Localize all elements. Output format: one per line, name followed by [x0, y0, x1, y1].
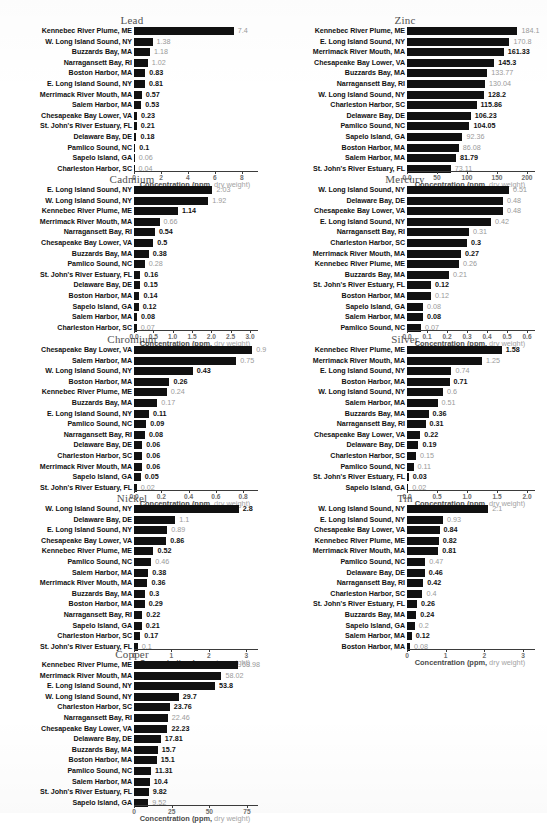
bar [134, 27, 234, 35]
bar [407, 600, 417, 608]
bar-row: Merrimack River Mouth, MA161.33 [273, 47, 547, 57]
bar-row: Salem Harbor, MA0.08 [0, 312, 273, 322]
chart-title: Lead [72, 14, 192, 26]
bar-value-label: 104.05 [473, 121, 495, 131]
bar-value-label: 161.33 [508, 47, 530, 57]
bar [134, 693, 179, 701]
bar-value-label: 1.14 [182, 206, 196, 216]
bar-value-label: 0.08 [427, 312, 441, 322]
bar-value-label: 0.31 [430, 419, 444, 429]
bar-row: E. Long Island Sound, NY53.8 [0, 681, 300, 691]
bar-row: Charleston Harbor, SC0.4 [273, 589, 547, 599]
bar-row: E. Long Island Sound, NY0.81 [0, 79, 273, 89]
bar [407, 399, 438, 407]
plot-area: Kennebec River Plume, ME184.1E. Long Isl… [273, 26, 547, 174]
bar [134, 622, 142, 630]
bar [407, 452, 416, 460]
category-label: Kennebec River Plume, ME [273, 345, 405, 355]
bar-track [134, 217, 250, 227]
bar-value-label: 0.51 [442, 398, 456, 408]
bar [134, 746, 158, 754]
bar-value-label: 2.8 [243, 504, 253, 514]
bar-value-label: 15.1 [161, 755, 175, 765]
bar-value-label: 0.57 [146, 90, 160, 100]
bar-track [134, 398, 250, 408]
bar-value-label: 22.23 [171, 724, 189, 734]
bar-value-label: 1.58 [506, 345, 520, 355]
bar [134, 112, 137, 120]
bar-value-label: 0.22 [146, 610, 160, 620]
bar-value-label: 1.1 [179, 515, 189, 525]
bar-value-label: 0.08 [149, 430, 163, 440]
bar-track [134, 546, 250, 556]
bar [134, 611, 142, 619]
category-label: E. Long Island Sound, NY [273, 515, 405, 525]
plot-area: E. Long Island Sound, NY2.03W. Long Isla… [0, 185, 273, 333]
category-label: Chesapeake Bay Lower, VA [0, 536, 132, 546]
bar-row: Chesapeake Bay Lower, VA0.86 [0, 536, 273, 546]
bar [134, 91, 142, 99]
bar-row: Sapelo Island, GA0.06 [0, 153, 273, 163]
bar-row: Chesapeake Bay Lower, VA0.5 [0, 238, 273, 248]
category-label: Chesapeake Bay Lower, VA [273, 206, 405, 216]
bar-value-label: 0.36 [151, 578, 165, 588]
category-label: Boston Harbor, MA [0, 377, 132, 387]
bar-row: Pamlico Sound, NC0.1 [0, 143, 273, 153]
bar-row: Buzzards Bay, MA0.38 [0, 249, 273, 259]
bar [407, 133, 462, 141]
bar [407, 59, 494, 67]
bar [407, 590, 422, 598]
bar-value-label: 0.1 [139, 143, 149, 153]
bar-row: Kennebec River Plume, ME0.82 [273, 536, 547, 546]
bar [134, 703, 170, 711]
bar [407, 303, 423, 311]
category-label: St. John's River Estuary, FL [273, 472, 405, 482]
bar [407, 271, 449, 279]
category-label: Sapelo Island, GA [273, 132, 405, 142]
bar-value-label: 0.15 [144, 280, 158, 290]
bar-track [407, 90, 527, 100]
bar-row: Pamlico Sound, NC0.47 [273, 557, 547, 567]
bar-row: Kennebec River Plume, ME68.98 [0, 660, 300, 670]
bar-value-label: 7.4 [238, 26, 248, 36]
category-label: Boston Harbor, MA [273, 377, 405, 387]
bar-track [134, 185, 250, 195]
bar-row: Pamlico Sound, NC0.11 [273, 462, 547, 472]
bar [407, 611, 416, 619]
category-label: Narragansett Bay, RI [0, 58, 132, 68]
bar-value-label: 53.8 [219, 681, 233, 691]
bar-track [407, 238, 527, 248]
bar-row: W. Long Island Sound, NY1.38 [0, 37, 273, 47]
bar-value-label: 0.42 [495, 217, 509, 227]
category-label: Narragansett Bay, RI [273, 227, 405, 237]
bar-row: Charleston Harbor, SC115.86 [273, 100, 547, 110]
category-label: Salem Harbor, MA [0, 777, 132, 787]
bar-track [134, 345, 250, 355]
category-label: Chesapeake Bay Lower, VA [273, 58, 405, 68]
bar-row: Salem Harbor, MA81.79 [273, 153, 547, 163]
axis-line [134, 171, 258, 172]
bar [407, 48, 504, 56]
bar-row: Chesapeake Bay Lower, VA0.23 [0, 111, 273, 121]
category-label: Narragansett Bay, RI [0, 713, 132, 723]
bar-track [134, 557, 250, 567]
plot-area: W. Long Island Sound, NY0.51Delaware Bay… [273, 185, 547, 333]
bar-track [134, 724, 250, 734]
bar-row: Narragansett Bay, RI0.31 [273, 227, 547, 237]
bar [134, 197, 208, 205]
chart-title: Zinc [345, 14, 465, 26]
bar-value-label: 0.12 [435, 280, 449, 290]
bar [134, 600, 145, 608]
bar-row: Charleston Harbor, SC0.06 [0, 451, 273, 461]
bar-row: Sapelo Island, GA0.08 [273, 302, 547, 312]
bar-row: Buzzards Bay, MA0.24 [273, 610, 547, 620]
bar [134, 473, 141, 481]
bar-value-label: 15.7 [162, 745, 176, 755]
category-label: Boston Harbor, MA [273, 291, 405, 301]
bar [407, 112, 471, 120]
bar-track [407, 185, 527, 195]
bar-track [407, 589, 527, 599]
bar-value-label: 2.03 [216, 185, 230, 195]
bar-row: St. John's River Estuary, FL0.21 [0, 121, 273, 131]
bar-value-label: 0.5 [157, 238, 167, 248]
